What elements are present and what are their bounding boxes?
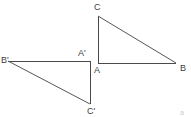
vertex-label-A-prime: A' bbox=[78, 49, 86, 58]
vertex-label-A: A bbox=[94, 66, 100, 75]
edge-CB bbox=[98, 16, 176, 63]
edge-B-prime-C-prime bbox=[8, 61, 90, 104]
original-triangle-group bbox=[98, 16, 176, 63]
geometry-figure bbox=[0, 0, 191, 117]
vertex-label-B-prime: B' bbox=[1, 56, 9, 65]
image-triangle-group bbox=[8, 61, 90, 104]
vertex-label-B: B bbox=[180, 64, 186, 73]
corner-artifact-mark: a bbox=[180, 109, 184, 116]
vertex-label-C-prime: C' bbox=[87, 107, 95, 116]
figure-canvas: C A B A' B' C' a bbox=[0, 0, 191, 117]
vertex-label-C: C bbox=[94, 3, 101, 12]
